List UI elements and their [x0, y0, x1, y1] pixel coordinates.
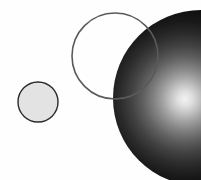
figure-svg [0, 0, 201, 180]
figure-canvas [0, 0, 201, 180]
canvas-background [0, 0, 201, 180]
